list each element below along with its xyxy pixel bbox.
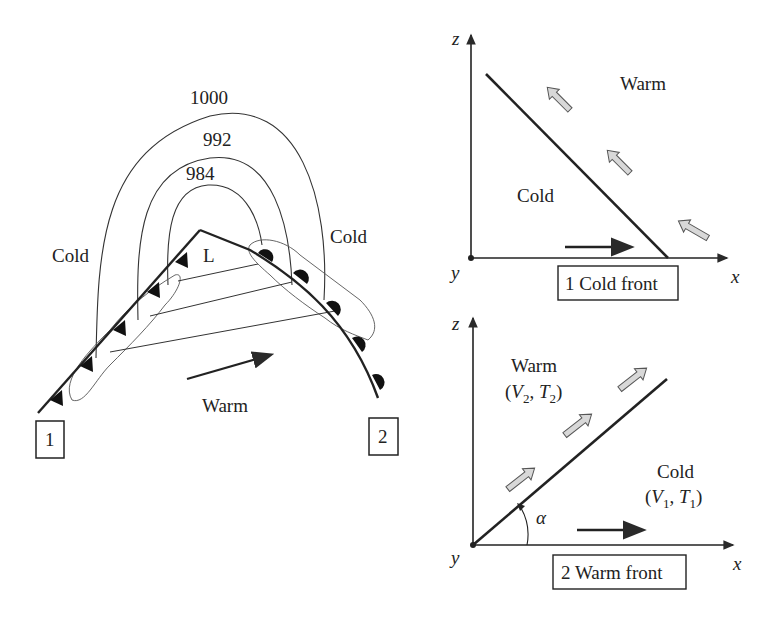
cold-label-left: Cold <box>52 245 89 266</box>
caption: 1 Cold front <box>565 273 659 294</box>
section-line-1 <box>178 264 258 281</box>
cold-front-cross-section: z x y Warm Cold 1 Cold front <box>449 28 740 300</box>
cold-label: Cold <box>517 185 554 206</box>
alpha-angle-arc <box>521 508 528 545</box>
z-axis-label: z <box>451 313 460 334</box>
section-line-2 <box>150 282 292 316</box>
warm-front-line <box>200 230 378 398</box>
warm-air-arrow <box>187 355 270 379</box>
isobar-label-1000: 1000 <box>190 87 228 108</box>
x-axis-label: x <box>730 266 740 287</box>
warm-air-flow-arrows <box>504 363 651 495</box>
warm-label: Warm <box>511 355 557 376</box>
warm-variables: (V2, T2) <box>505 381 562 406</box>
cold-label-right: Cold <box>330 226 367 247</box>
warm-front-cross-section: z x y Warm (V2, T2) Cold (V1, T1) α 2 Wa… <box>449 313 742 589</box>
warm-air-flow-arrows <box>542 82 711 244</box>
cold-variables: (V1, T1) <box>645 486 702 511</box>
section-line-4 <box>92 318 372 372</box>
x-axis-label: x <box>732 553 742 574</box>
fronts-diagram: 1000 992 984 Cold Cold L Warm 1 2 z x y … <box>0 0 770 618</box>
origin-dot <box>468 255 474 261</box>
y-axis-label: y <box>449 547 460 568</box>
warm-label: Warm <box>620 73 666 94</box>
cyclone-plan-view: 1000 992 984 Cold Cold L Warm 1 2 <box>36 87 398 458</box>
isobar-label-992: 992 <box>203 129 232 150</box>
cold-front-cloud-band <box>69 275 180 401</box>
cold-label: Cold <box>657 461 694 482</box>
alpha-label: α <box>536 507 547 528</box>
y-axis-label: y <box>449 262 460 283</box>
z-axis-label: z <box>451 28 460 49</box>
caption: 2 Warm front <box>561 562 663 583</box>
marker-2-label: 2 <box>378 426 388 447</box>
isobar-992 <box>138 157 292 320</box>
cold-front-surface <box>486 74 668 258</box>
warm-front-surface <box>473 379 667 545</box>
section-line-3 <box>110 311 335 352</box>
isobar-label-984: 984 <box>186 163 215 184</box>
low-pressure-label: L <box>203 245 215 266</box>
marker-1-label: 1 <box>45 429 55 450</box>
warm-label: Warm <box>202 395 248 416</box>
